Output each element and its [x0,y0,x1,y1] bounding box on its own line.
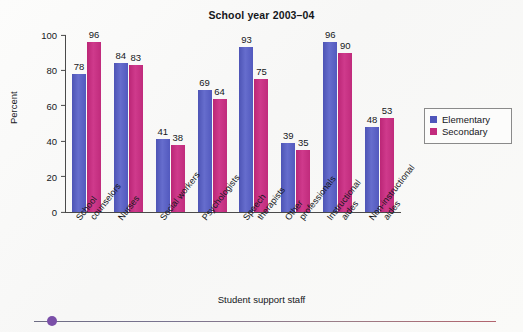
bar-elementary[interactable]: 93 [239,47,253,212]
bar-value-label: 38 [172,132,183,143]
footer-dot-icon [47,316,57,326]
y-axis-tick-label: 20 [10,171,66,182]
bar-value-label: 90 [340,40,351,51]
y-axis-tick-mark [61,141,66,142]
legend-label-elementary: Elementary [442,114,490,125]
y-axis-tick-mark [61,34,66,35]
y-axis-tick-mark [61,70,66,71]
legend-swatch-icon-secondary [430,128,437,135]
y-axis-tick-mark [61,211,66,212]
bar-elementary[interactable]: 69 [198,90,212,212]
legend-label-secondary: Secondary [442,126,487,137]
bar-value-label: 53 [382,105,393,116]
bar-value-label: 35 [298,137,309,148]
bar-value-label: 75 [256,66,267,77]
y-axis-tick-mark [61,176,66,177]
bar-value-label: 83 [131,52,142,63]
bar-value-label: 64 [214,86,225,97]
bar-value-label: 96 [325,29,336,40]
bar-secondary[interactable]: 83 [129,65,143,212]
bar-elementary[interactable]: 78 [72,74,86,212]
y-axis-line [65,35,66,213]
legend-item-elementary: Elementary [430,114,506,125]
legend: Elementary Secondary [424,108,512,144]
bar-value-label: 41 [157,126,168,137]
bar-value-label: 69 [199,77,210,88]
x-axis-title: Student support staff [0,294,523,305]
chart-page: School year 2003–04 Percent 020406080100… [0,0,523,332]
y-axis-tick-label: 60 [10,100,66,111]
bar-value-label: 84 [116,50,127,61]
y-axis-tick-label: 80 [10,65,66,76]
bar-value-label: 93 [241,34,252,45]
bar-elementary[interactable]: 48 [365,127,379,212]
y-axis-tick-label: 100 [10,30,66,41]
y-axis-tick-label: 0 [10,207,66,218]
bar-value-label: 48 [367,114,378,125]
bar-value-label: 96 [89,29,100,40]
bar-value-label: 39 [283,130,294,141]
bar-value-label: 78 [74,61,85,72]
legend-swatch-icon-elementary [430,116,437,123]
footer-rule [34,321,496,322]
chart-title: School year 2003–04 [0,9,523,21]
y-axis-tick-mark [61,105,66,106]
bar-elementary[interactable]: 41 [156,139,170,212]
y-axis-tick-label: 40 [10,136,66,147]
legend-item-secondary: Secondary [430,126,506,137]
